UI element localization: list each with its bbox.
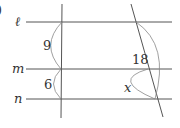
segment-x-label: x bbox=[124, 80, 132, 95]
line-l-label: ℓ bbox=[15, 14, 21, 29]
line-n-label: n bbox=[14, 91, 22, 106]
geometry-diagram: ) ℓ m n 9 6 18 x bbox=[0, 0, 180, 128]
segment-18-label: 18 bbox=[132, 52, 149, 67]
arc-x bbox=[131, 69, 155, 99]
partial-label: ) bbox=[0, 2, 2, 17]
arc-9 bbox=[51, 22, 62, 69]
segment-9-label: 9 bbox=[43, 38, 51, 53]
vertical-transversal bbox=[61, 4, 62, 118]
arc-6 bbox=[54, 69, 62, 99]
line-m-label: m bbox=[12, 61, 24, 76]
segment-6-label: 6 bbox=[44, 77, 52, 92]
